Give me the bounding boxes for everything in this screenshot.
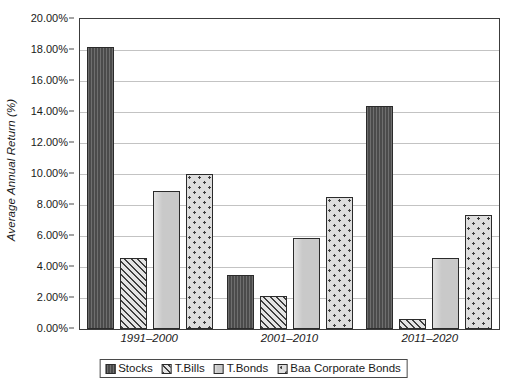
plot-area: [79, 18, 500, 330]
bar: [293, 238, 320, 329]
legend-label: T.Bonds: [227, 363, 269, 374]
legend-label: Stocks: [118, 363, 153, 374]
y-axis-tick-label: 4.00%: [37, 260, 68, 272]
y-axis-tick-mark: [69, 204, 74, 205]
y-axis-tick-mark: [69, 80, 74, 81]
y-axis-tick-label: 18.00%: [31, 43, 68, 55]
legend-item[interactable]: T.Bonds: [214, 363, 269, 374]
legend-item[interactable]: Baa Corporate Bonds: [277, 363, 401, 374]
y-axis-tick-labels: 0.00%2.00%4.00%6.00%8.00%10.00%12.00%14.…: [22, 12, 74, 334]
legend-item[interactable]: Stocks: [105, 363, 153, 374]
bar-chart: Average Annual Return (%) 0.00%2.00%4.00…: [0, 0, 507, 383]
y-axis-title-label: Average Annual Return (%): [5, 99, 17, 242]
legend-swatch-icon: [162, 364, 172, 374]
x-axis-tick-label: 2011–2020: [360, 332, 500, 350]
y-axis-tick-label: 16.00%: [31, 74, 68, 86]
bar: [186, 174, 213, 329]
bar: [326, 197, 353, 329]
y-axis-tick-mark: [69, 266, 74, 267]
x-axis-tick-label: 1991–2000: [79, 332, 219, 350]
y-axis-tick-label: 10.00%: [31, 167, 68, 179]
legend-swatch-icon: [277, 364, 287, 374]
y-axis-tick-mark: [69, 49, 74, 50]
y-axis-tick-label: 0.00%: [37, 322, 68, 334]
legend-label: Baa Corporate Bonds: [290, 363, 401, 374]
y-axis-tick-label: 12.00%: [31, 136, 68, 148]
y-axis-tick-mark: [69, 235, 74, 236]
bar-group: [359, 19, 499, 329]
y-axis-tick-mark: [69, 142, 74, 143]
chart-legend: StocksT.BillsT.BondsBaa Corporate Bonds: [99, 359, 408, 378]
bar: [120, 258, 147, 329]
legend-swatch-icon: [214, 364, 224, 374]
legend-label: T.Bills: [175, 363, 205, 374]
y-axis-tick-mark: [69, 328, 74, 329]
bar: [260, 296, 287, 329]
bar-group: [80, 19, 220, 329]
y-axis-tick-label: 2.00%: [37, 291, 68, 303]
bar: [432, 258, 459, 329]
x-axis-tick-labels: 1991–20002001–20102011–2020: [79, 332, 500, 350]
x-axis-tick-label: 2001–2010: [219, 332, 359, 350]
bar: [465, 215, 492, 329]
bar-group: [220, 19, 360, 329]
y-axis-title: Average Annual Return (%): [0, 0, 22, 340]
legend-item[interactable]: T.Bills: [162, 363, 205, 374]
y-axis-tick-mark: [69, 111, 74, 112]
y-axis-tick-label: 14.00%: [31, 105, 68, 117]
y-axis-tick-label: 8.00%: [37, 198, 68, 210]
bar: [366, 106, 393, 329]
bar-groups: [80, 19, 499, 329]
legend-swatch-icon: [105, 364, 115, 374]
bar: [87, 47, 114, 329]
bar: [227, 275, 254, 329]
y-axis-tick-label: 6.00%: [37, 229, 68, 241]
y-axis-tick-mark: [69, 173, 74, 174]
bar: [153, 191, 180, 329]
y-axis-tick-mark: [69, 18, 74, 19]
bar: [399, 319, 426, 329]
y-axis-tick-label: 20.00%: [31, 12, 68, 24]
y-axis-tick-mark: [69, 297, 74, 298]
